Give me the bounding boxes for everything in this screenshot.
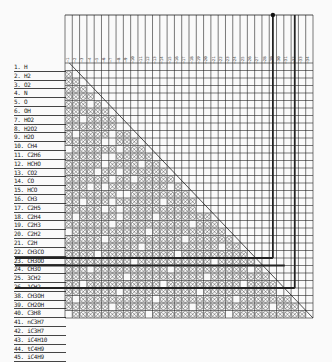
svg-text:—3: —3 <box>79 57 84 62</box>
svg-text:—19: —19 <box>196 56 201 64</box>
svg-text:—1: —1 <box>65 57 70 62</box>
svg-text:—31: —31 <box>283 56 288 64</box>
svg-text:—21: —21 <box>211 56 216 64</box>
svg-text:—23: —23 <box>225 56 230 64</box>
svg-text:—18: —18 <box>189 56 194 64</box>
svg-text:—9: —9 <box>123 57 128 62</box>
svg-text:—4: —4 <box>87 57 92 62</box>
svg-text:—25: —25 <box>240 56 245 64</box>
svg-text:—15: —15 <box>167 56 172 64</box>
svg-text:—14: —14 <box>159 56 164 64</box>
svg-text:—24: —24 <box>232 56 237 64</box>
svg-text:—30: —30 <box>276 56 281 64</box>
svg-text:—17: —17 <box>181 56 186 64</box>
svg-text:—22: —22 <box>218 56 223 64</box>
svg-text:—34: —34 <box>305 56 310 64</box>
svg-text:—6: —6 <box>101 57 106 62</box>
svg-text:—5: —5 <box>94 57 99 62</box>
svg-text:—26: —26 <box>247 56 252 64</box>
svg-text:—8: —8 <box>116 57 121 62</box>
row-label: 43. iC4H10 <box>14 336 66 345</box>
svg-text:—7: —7 <box>108 57 113 62</box>
svg-text:—16: —16 <box>174 56 179 64</box>
svg-text:—33: —33 <box>298 56 303 64</box>
svg-text:—28: —28 <box>262 56 267 64</box>
svg-text:—13: —13 <box>152 56 157 64</box>
svg-text:—20: —20 <box>203 56 208 64</box>
svg-text:—12: —12 <box>145 56 150 64</box>
svg-text:—2: —2 <box>72 57 77 62</box>
svg-text:—27: —27 <box>254 56 259 64</box>
row-label: 45. iC4H9 <box>14 353 66 362</box>
row-label: 44. tC4H9 <box>14 345 66 354</box>
svg-text:—11: —11 <box>138 56 143 64</box>
svg-text:—10: —10 <box>130 56 135 64</box>
